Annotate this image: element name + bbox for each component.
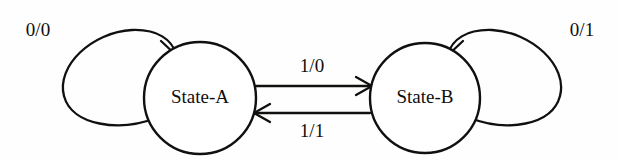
- transition-a-to-b: [256, 77, 372, 95]
- state-b-label: State-B: [397, 86, 454, 107]
- state-a-label: State-A: [171, 86, 229, 107]
- transition-label-a-to-b: 1/0: [300, 55, 324, 76]
- transition-label-b-to-b: 0/1: [570, 19, 594, 40]
- fsm-canvas: State-A State-B 0/0 1/0 1/1 0/1: [0, 0, 618, 160]
- transition-b-to-a: [254, 104, 370, 122]
- state-machine-diagram: State-A State-B 0/0 1/0 1/1 0/1: [0, 0, 618, 160]
- transition-label-b-to-a: 1/1: [300, 120, 324, 141]
- transition-label-a-to-a: 0/0: [26, 19, 50, 40]
